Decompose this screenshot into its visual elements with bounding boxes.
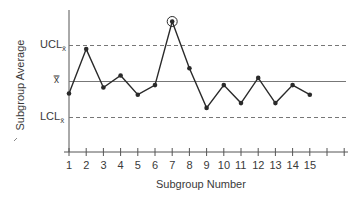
x-tick-label: 5 (135, 159, 141, 171)
data-point (308, 92, 313, 97)
lcl-subscript: x̄ (60, 116, 64, 125)
ucl-text: UCL (40, 38, 62, 50)
x-tick-label: 10 (218, 159, 230, 171)
x-tick-label: 8 (186, 159, 192, 171)
data-point (136, 92, 141, 97)
y-axis-label: Subgroup Average (14, 40, 26, 131)
x-tick-label: 7 (169, 159, 175, 171)
lcl-text: LCL (40, 110, 60, 122)
data-series (67, 17, 312, 111)
x-tick-label: 14 (287, 159, 299, 171)
lcl-label: LCLx̄ (40, 110, 64, 125)
x-tick-label: 1 (66, 159, 72, 171)
x-tick-label: 6 (152, 159, 158, 171)
ucl-label: UCLx̄ (40, 38, 66, 53)
cl-text: x̿ (54, 74, 59, 85)
data-point (273, 101, 278, 106)
ucl-subscript: x̄ (62, 44, 66, 53)
x-tick-label: 11 (235, 159, 246, 171)
x-tick-label: 13 (269, 159, 281, 171)
data-point (256, 76, 261, 81)
data-point (187, 66, 192, 71)
x-tick-label: 4 (118, 159, 124, 171)
x-tick-label: 9 (204, 159, 210, 171)
x-axis-label: Subgroup Number (156, 178, 246, 190)
data-point (170, 19, 175, 24)
x-tick-label: 3 (100, 159, 106, 171)
data-point (67, 91, 72, 96)
stray-mark (14, 138, 17, 141)
center-line-label: x̿ (54, 74, 59, 85)
data-point (153, 83, 158, 88)
data-point (222, 83, 227, 88)
data-point (239, 101, 244, 106)
data-point (84, 47, 89, 52)
x-tick-label: 12 (252, 159, 264, 171)
data-point (101, 85, 106, 90)
x-tick-label: 2 (83, 159, 89, 171)
data-point (204, 106, 209, 111)
data-point (290, 83, 295, 88)
series-line (69, 22, 310, 108)
x-tick-label: 15 (304, 159, 316, 171)
data-point (118, 73, 123, 78)
